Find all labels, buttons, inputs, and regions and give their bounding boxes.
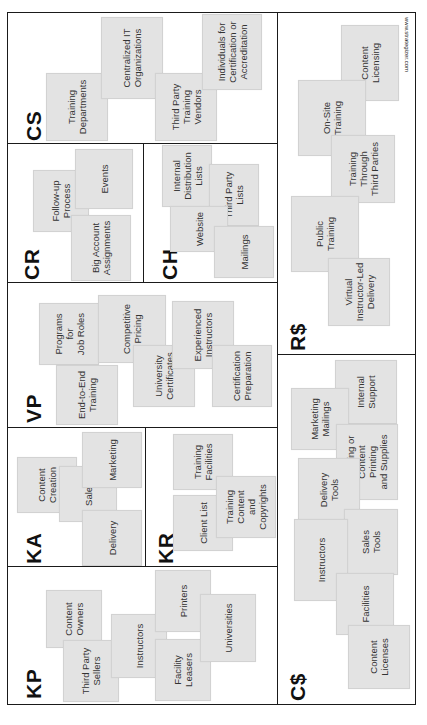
section-code-vp: VP [22, 394, 46, 423]
note-training-content-copyrights[interactable]: Training Content and Copyrights [216, 476, 276, 538]
note-sales-tools[interactable]: Sales Tools [344, 509, 398, 575]
note-internal-distribution-lists[interactable]: Internal Distribution Lists [162, 145, 212, 207]
note-big-account-assignments[interactable]: Big Account Assignments [71, 215, 131, 281]
note-programs-job-roles[interactable]: Programs for Job Roles [39, 303, 99, 365]
section-code-cost: C$ [286, 673, 310, 701]
note-end-to-end-training[interactable]: End-to-End Training [56, 365, 118, 425]
section-code-ch: CH [158, 249, 182, 280]
section-code-kp: KP [22, 669, 46, 699]
note-training-departments[interactable]: Training Departments [46, 73, 108, 141]
section-channels: CH Internal Distribution Lists Third Par… [143, 143, 278, 283]
section-key-partners: KP Content Owners Third Party Sellers In… [7, 566, 278, 705]
note-centralized-it[interactable]: Centralized IT Organizations [101, 17, 163, 99]
note-content-licenses[interactable]: Content Licenses [348, 625, 410, 689]
note-mailings[interactable]: Mailings [214, 226, 274, 278]
note-universities[interactable]: Universities [200, 594, 256, 662]
business-model-canvas: CS Training Departments Centralized IT O… [0, 0, 427, 725]
note-training-third-parties[interactable]: Training Through Third Parties [331, 135, 395, 203]
note-certification-preparation[interactable]: Certification Preparation [212, 345, 272, 407]
section-code-cr: CR [20, 249, 44, 280]
section-key-activities: KA Content Creation Sales Marketing Deli… [7, 427, 146, 567]
section-code-ka: KA [22, 533, 46, 564]
credit-text: www.strategizer.com [404, 17, 410, 72]
section-revenue-streams: R$ Content Licensing On-Site Training Tr… [277, 12, 416, 355]
section-customer-segments: CS Training Departments Centralized IT O… [7, 12, 278, 144]
section-code-revenue: R$ [286, 323, 310, 351]
section-key-resources: KR Training Facilities Client List Train… [145, 427, 278, 567]
note-virtual-instructor-led[interactable]: Virtual Instructor-Led Delivery [328, 258, 390, 326]
section-cost-structure: C$ Internal Support Marketing Mailings M… [277, 354, 416, 705]
note-delivery[interactable]: Delivery [82, 510, 142, 566]
section-value-propositions: VP Programs for Job Roles Competitive Pr… [7, 282, 278, 428]
section-customer-relationships: CR Follow-up Process Events Big Account … [7, 143, 144, 283]
section-code-cs: CS [22, 111, 46, 141]
note-marketing[interactable]: Marketing [82, 432, 142, 488]
note-individuals-certification[interactable]: Individuals for Certification or Accredi… [202, 14, 262, 90]
note-events[interactable]: Events [75, 149, 133, 209]
